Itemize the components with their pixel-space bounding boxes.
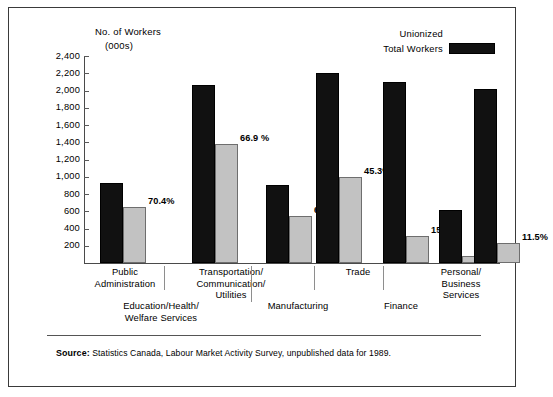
bar-total-workers[interactable] [100, 183, 123, 263]
y-tick-label: 2,000 [33, 85, 80, 95]
y-tick-label: 1,400 [33, 137, 80, 147]
bar-group [192, 56, 238, 263]
bar-total-workers[interactable] [439, 210, 462, 263]
percent-label: 66.9 % [240, 133, 269, 143]
source-divider [47, 335, 481, 336]
bar-unionized[interactable] [339, 177, 362, 263]
category-separator [251, 266, 252, 302]
legend-swatch-total [449, 43, 495, 54]
chart-frame: No. of Workers (000s) UnionizedTotal Wor… [8, 7, 516, 387]
y-axis-title-line2: (000s) [105, 40, 133, 51]
source-label: Source: [56, 348, 90, 358]
bar-unionized[interactable] [215, 144, 238, 263]
category-separator [164, 266, 165, 290]
bar-group [474, 56, 520, 263]
category-separator [314, 266, 315, 290]
bar-group [266, 56, 312, 263]
y-tick-label: 1,600 [33, 120, 80, 130]
legend-label-unionized: Unionized [400, 28, 444, 39]
bar-total-workers[interactable] [192, 85, 215, 263]
legend-swatch-unionized [449, 28, 495, 39]
bar-total-workers[interactable] [266, 185, 289, 263]
bar-group [383, 56, 429, 263]
y-tick-label: 800 [33, 189, 80, 199]
bar-group [100, 56, 146, 263]
y-tick-label: 1,800 [33, 102, 80, 112]
source-note: Source: Statistics Canada, Labour Market… [56, 348, 391, 358]
category-label-line: Services [207, 289, 553, 301]
legend-item-unionized: Unionized [383, 28, 495, 39]
category-separator [383, 266, 384, 290]
y-tick-label: 200 [33, 240, 80, 250]
bar-total-workers[interactable] [474, 89, 497, 263]
cat-finance: Finance [147, 300, 553, 312]
bar-total-workers[interactable] [383, 82, 406, 263]
category-label-line: Personal/ [207, 266, 553, 278]
source-text: Statistics Canada, Labour Market Activit… [90, 348, 391, 358]
chart-legend: UnionizedTotal Workers [383, 28, 495, 58]
y-tick-label: 1,200 [33, 154, 80, 164]
y-tick-label: 600 [33, 206, 80, 216]
y-tick-label: 1,000 [33, 171, 80, 181]
legend-label-total: Total Workers [383, 43, 443, 54]
category-label-line: Finance [147, 300, 553, 312]
chart-plot-area: No. of Workers (000s) UnionizedTotal Wor… [9, 8, 517, 388]
bar-groups: 70.4%66.9 %60.2%45.3%15.1%12.4%11.5% [84, 56, 500, 263]
bar-unionized[interactable] [289, 216, 312, 263]
category-label-line: Welfare Services [0, 312, 415, 324]
bar-group [316, 56, 362, 263]
percent-label: 70.4% [148, 196, 175, 206]
percent-label: 11.5% [522, 232, 548, 242]
bar-unionized[interactable] [406, 236, 429, 263]
category-label-line: Business [207, 278, 553, 290]
y-tick-label: 2,400 [33, 51, 80, 61]
bar-total-workers[interactable] [316, 73, 339, 263]
y-axis-title-line1: No. of Workers [95, 26, 161, 37]
y-tick-label: 2,200 [33, 68, 80, 78]
bar-unionized[interactable] [497, 243, 520, 263]
legend-item-total: Total Workers [383, 43, 495, 54]
y-tick-label: 400 [33, 223, 80, 233]
cat-personal-business-services: Personal/BusinessServices [207, 266, 553, 301]
bar-unionized[interactable] [123, 207, 146, 263]
